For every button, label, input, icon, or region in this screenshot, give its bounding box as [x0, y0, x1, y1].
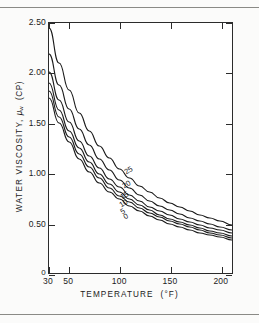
y-tick-left-0.50: [49, 225, 55, 226]
curve-group: [49, 23, 232, 273]
y-tick-label-1.50: 1.50: [29, 118, 46, 128]
y-tick-right-2.00: [226, 73, 232, 74]
y-axis-subscript: w: [18, 106, 24, 110]
y-axis-title-text: WATER VISCOSITY,: [15, 119, 24, 212]
y-tick-label-2.50: 2.50: [29, 17, 46, 27]
curve-10: [49, 83, 232, 236]
x-tick-label-150: 150: [163, 276, 178, 286]
x-tick-label-30: 30: [43, 276, 53, 286]
curve-0: [49, 98, 232, 240]
x-axis-title: TEMPERATURE(°F): [0, 290, 259, 299]
y-tick-left-1.00: [49, 174, 55, 175]
y-tick-right-0.50: [226, 225, 232, 226]
x-tick-label-100: 100: [112, 276, 127, 286]
x-axis-unit: (°F): [161, 290, 179, 299]
x-tick-bottom-50: [69, 267, 70, 273]
y-axis-symbol: μ: [15, 111, 24, 116]
x-tick-top-100: [120, 23, 121, 29]
x-tick-top-200: [222, 23, 223, 29]
x-tick-label-50: 50: [63, 276, 73, 286]
y-tick-label-1.00: 1.00: [29, 168, 46, 178]
figure-water-viscosity-chart: 00.501.001.502.002.50 WATER VISCOSITY, μ…: [0, 0, 259, 323]
x-tick-bottom-150: [171, 267, 172, 273]
y-tick-label-2.00: 2.00: [29, 67, 46, 77]
x-tick-bottom-30: [49, 267, 50, 273]
y-tick-left-2.00: [49, 73, 55, 74]
x-axis-title-text: TEMPERATURE: [80, 290, 153, 299]
x-tick-bottom-100: [120, 267, 121, 273]
y-axis-title: WATER VISCOSITY, μw (CP): [15, 52, 24, 242]
plot-area: 2520151050: [48, 22, 233, 274]
y-tick-label-0.50: 0.50: [29, 219, 46, 229]
y-tick-right-1.50: [226, 124, 232, 125]
curve-20: [49, 54, 232, 230]
x-tick-top-50: [69, 23, 70, 29]
y-axis-unit: (CP): [15, 81, 24, 100]
y-tick-left-1.50: [49, 124, 55, 125]
y-tick-right-2.50: [226, 23, 232, 24]
y-tick-left-2.50: [49, 23, 55, 24]
y-tick-right-1.00: [226, 174, 232, 175]
x-tick-top-150: [171, 23, 172, 29]
x-tick-label-200: 200: [213, 276, 228, 286]
x-tick-bottom-200: [222, 267, 223, 273]
